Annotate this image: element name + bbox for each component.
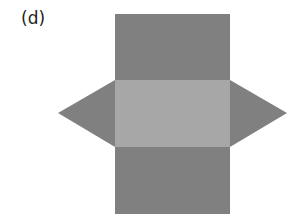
right-triangle-face	[230, 80, 287, 147]
prism-net-diagram	[0, 0, 300, 224]
top-rectangle-face	[115, 14, 230, 80]
left-triangle-face	[58, 80, 115, 147]
middle-rectangle-face	[115, 80, 230, 147]
bottom-rectangle-face	[115, 147, 230, 214]
